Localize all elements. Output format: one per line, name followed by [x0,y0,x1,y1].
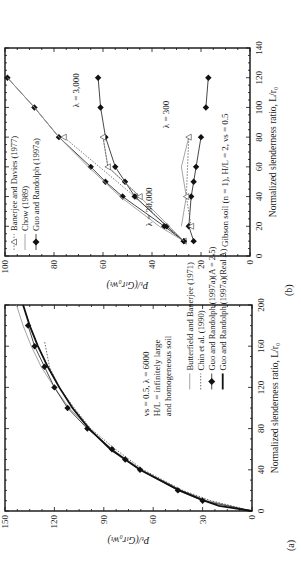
annotation-text: H/L = infinitely large [152,339,162,416]
x-tick-label: 80 [254,132,264,142]
y-axis-label: Pₜ/(Gₗr₀wₜ) [108,534,151,545]
x-tick-label: 120 [256,380,266,394]
x-tick-label: 20 [254,221,264,231]
x-tick-label: 40 [256,465,266,475]
annotation-text: νs = 0.5, λ = 6000 [141,351,151,416]
diamond-marker-icon [51,384,57,390]
diamond-marker-icon [95,75,101,81]
diamond-marker-icon [122,179,128,185]
annotation-text: Gibson soil (n = 1), H/L = 2, νs = 0.5 [220,113,230,247]
y-axis-label: Pₜ/(Gₗr₀wₜ) [107,279,150,290]
x-tick-label: 160 [256,339,266,353]
rotated-figure: 040801201602000306090120150Normalized sl… [0,0,301,587]
legend-entry: Butterfield and Banerjee (1971) [185,262,195,371]
diamond-marker-icon [193,164,199,170]
diamond-marker-icon [198,134,204,140]
y-tick-label: 30 [198,515,208,525]
legend-entry: Chin et al. (1990) [196,310,206,370]
legend-entry: Chow (1989) [20,186,30,231]
y-tick-label: 60 [148,515,158,525]
x-tick-label: 80 [256,424,266,434]
y-tick-label: 60 [98,260,108,270]
y-tick-label: 0 [245,260,255,265]
x-axis-label: Normalized slenderness ratio, L/r₀ [270,343,280,473]
figure-canvas: 040801201602000306090120150Normalized sl… [0,0,301,587]
y-tick-label: 20 [196,260,206,270]
curve-label: λ = 30,000 [144,187,154,226]
panel-label: (a) [285,540,297,551]
chart-panel-b: 020406080100120140020406080100Normalized… [0,41,295,296]
x-axis-label: Normalized slenderness ratio, L/r₀ [268,87,278,217]
diamond-marker-icon [203,104,209,110]
plot-frame [5,48,250,256]
y-tick-label: 120 [49,515,59,529]
x-tick-label: 140 [254,41,264,55]
curve-label: λ = 3,000 [71,73,81,108]
curve-label: λ = 300 [161,100,171,128]
diamond-marker-icon [112,164,118,170]
x-tick-label: 0 [254,253,264,258]
diamond-marker-icon [205,75,211,81]
series-line [181,137,188,226]
x-tick-label: 40 [254,192,264,202]
annotation-text: and homogeneous soil [163,335,173,416]
triangle-marker-icon [100,134,106,140]
y-tick-label: 40 [147,260,157,270]
legend-entry: Guo and Randolph (1997a)(Real A) [218,248,228,370]
y-tick-label: 150 [0,515,10,529]
series-line [206,78,208,108]
legend-entry: Banerjee and Davies (1977) [9,136,19,231]
legend-entry: Guo and Randolph (1997a) [31,138,41,231]
x-tick-label: 60 [254,162,264,172]
diamond-marker-icon [97,104,103,110]
y-tick-label: 90 [99,515,109,525]
chart-panel-a: 040801201602000306090120150Normalized sl… [0,247,297,551]
x-tick-label: 0 [256,508,266,513]
x-tick-label: 200 [256,298,266,312]
diamond-marker-icon [190,179,196,185]
x-tick-label: 120 [254,70,264,84]
diamond-marker-icon [33,239,40,246]
diamond-marker-icon [208,378,215,385]
x-tick-label: 100 [254,100,264,114]
y-tick-label: 80 [49,260,59,270]
y-tick-label: 100 [0,260,10,274]
legend-entry: Guo and Randolph (1997a)(A = 2.5) [207,247,217,371]
diamond-marker-icon [190,238,196,244]
y-tick-label: 0 [247,515,257,520]
panel-label: (b) [283,284,295,296]
